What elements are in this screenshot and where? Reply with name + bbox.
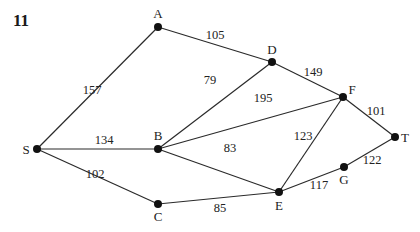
edge-weight-B-D: 79: [204, 73, 217, 87]
node-label-G: G: [339, 172, 348, 187]
question-number: 11: [13, 11, 29, 30]
edge-weight-A-D: 105: [206, 28, 225, 42]
node-F: [339, 93, 347, 101]
edge-weight-E-F: 123: [294, 129, 313, 143]
edge-weight-S-B: 134: [95, 133, 115, 147]
edge-weight-S-A: 157: [83, 83, 102, 97]
edge-B-F: [158, 97, 343, 149]
node-A: [154, 23, 162, 31]
edge-weight-S-C: 102: [86, 167, 105, 181]
edge-weight-D-F: 149: [304, 65, 323, 79]
node-label-C: C: [154, 209, 163, 224]
edge-weight-F-T: 101: [367, 104, 386, 118]
edge-weight-E-G: 117: [310, 178, 328, 192]
network-diagram: 11 157134102105791958385149123117101122 …: [0, 0, 420, 232]
node-S: [33, 145, 41, 153]
node-label-D: D: [267, 42, 276, 57]
edge-B-E: [158, 149, 279, 192]
node-label-S: S: [22, 142, 29, 157]
node-label-E: E: [275, 198, 283, 213]
node-T: [391, 133, 399, 141]
edge-weight-G-T: 122: [363, 153, 382, 167]
node-label-F: F: [348, 82, 355, 97]
node-C: [154, 200, 162, 208]
node-label-B: B: [154, 128, 163, 143]
node-B: [154, 145, 162, 153]
edge-weight-C-E: 85: [214, 201, 227, 215]
node-label-A: A: [153, 6, 163, 21]
node-D: [268, 58, 276, 66]
node-label-T: T: [401, 130, 409, 145]
node-G: [340, 163, 348, 171]
node-E: [275, 188, 283, 196]
edge-weight-B-E: 83: [224, 141, 237, 155]
edge-weight-B-F: 195: [254, 91, 273, 105]
